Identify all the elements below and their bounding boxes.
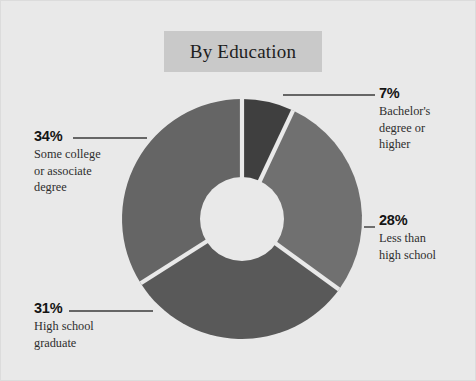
callout-some-college: 34% Some college or associate degree: [34, 129, 154, 195]
donut-center-hole: [200, 177, 284, 261]
callout-some-college-percent: 34%: [34, 129, 154, 144]
callout-bachelors-percent: 7%: [379, 86, 474, 101]
callout-some-college-description: Some college or associate degree: [34, 146, 154, 195]
callout-high-school-graduate-description: High school graduate: [34, 318, 154, 351]
callout-bachelors-description: Bachelor's degree or higher: [379, 103, 474, 152]
callout-less-than-high-school-description: Less than high school: [379, 230, 474, 263]
callout-less-than-high-school-percent: 28%: [379, 213, 474, 228]
callout-high-school-graduate-percent: 31%: [34, 301, 154, 316]
callout-bachelors: 7% Bachelor's degree or higher: [379, 86, 474, 152]
chart-page: By Education: [0, 0, 476, 381]
callout-high-school-graduate: 31% High school graduate: [34, 301, 154, 351]
callout-less-than-high-school: 28% Less than high school: [379, 213, 474, 263]
